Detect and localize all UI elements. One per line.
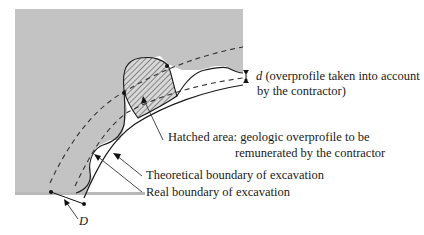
hatched-label-line1: Hatched area: geologic overprofile to be — [168, 130, 370, 144]
d-marker — [243, 70, 249, 83]
real-label: Real boundary of excavation — [146, 185, 291, 199]
theoretical-label: Theoretical boundary of excavation — [146, 168, 325, 182]
excavation-diagram: d (overprofile taken into account by the… — [0, 0, 424, 235]
point-right — [165, 64, 169, 68]
d-label: d (overprofile taken into account — [256, 69, 420, 83]
point-left — [122, 91, 126, 95]
d-label-line2: by the contractor) — [257, 84, 346, 98]
leader-D — [64, 199, 78, 219]
ground-strip — [15, 192, 145, 195]
D-label: D — [78, 214, 88, 228]
hatched-label-line2: remunerated by the contractor — [235, 146, 386, 160]
